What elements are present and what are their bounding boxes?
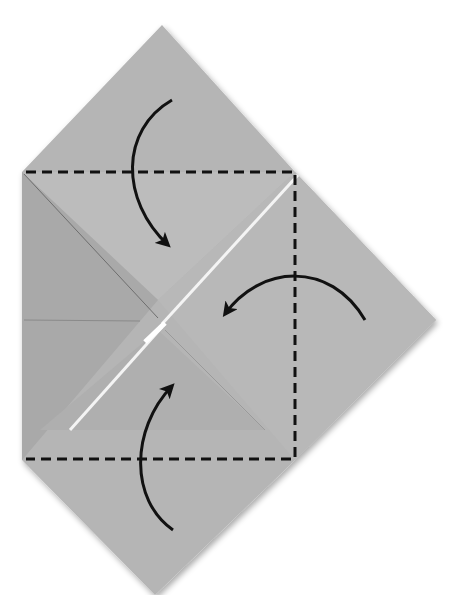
diagram-canvas	[0, 0, 454, 595]
origami-diagram	[0, 0, 454, 595]
